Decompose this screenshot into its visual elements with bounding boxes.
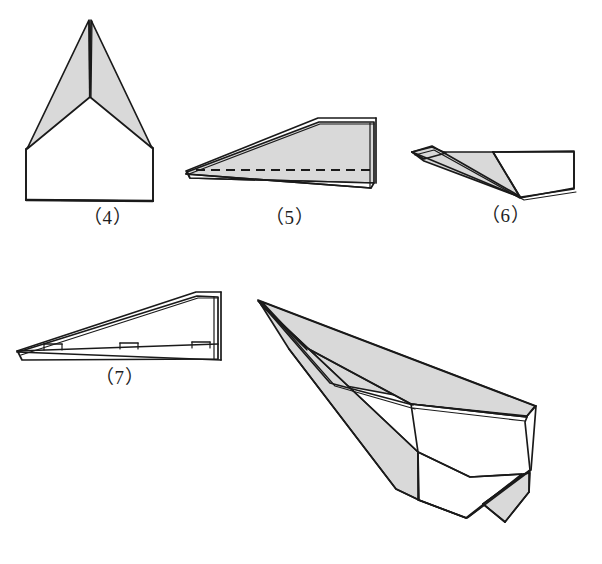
illustration-sheet: .ln { fill: none; stroke: #1a1a1a; strok… [0,0,602,564]
figure-label-step-6: （6） [481,206,530,225]
step4-body-bottom-edge [26,200,153,201]
origami-steps-diagram: .ln { fill: none; stroke: #1a1a1a; strok… [0,0,602,564]
figure-label-step-4: （4） [83,208,132,227]
step4-center-crease-left [89,21,90,97]
figure-label-step-5: （5） [265,208,314,227]
figure-label-step-7: （7） [95,368,144,387]
